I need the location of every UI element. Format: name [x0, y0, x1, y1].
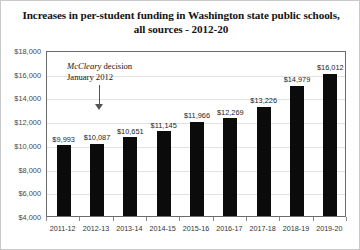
chart-title: Increases in per-student funding in Wash…: [19, 8, 343, 36]
bar[interactable]: [190, 122, 204, 216]
bar-value-label: $13,226: [250, 96, 277, 105]
y-axis-tick-label: $18,000: [0, 47, 41, 56]
mccleary-annotation: McCleary decision January 2012: [67, 61, 132, 82]
x-axis-tick: [79, 217, 80, 221]
bar-slot: $16,012: [314, 52, 347, 216]
x-axis-tick: [246, 217, 247, 221]
x-axis-category-label: 2018-19: [283, 224, 309, 233]
annotation-line-1: McCleary decision: [67, 61, 132, 72]
bar-slot: $14,979: [280, 52, 313, 216]
bar[interactable]: [90, 144, 104, 216]
x-axis-category-label: 2014-15: [149, 224, 175, 233]
bar-value-label: $16,012: [317, 63, 344, 72]
bar[interactable]: [223, 118, 237, 216]
bar[interactable]: [323, 74, 337, 216]
y-axis-tick-label: $14,000: [0, 94, 41, 103]
x-axis-tick: [113, 217, 114, 221]
x-axis-tick: [313, 217, 314, 221]
bar-slot: $11,145: [147, 52, 180, 216]
bar-slot: $13,226: [247, 52, 280, 216]
x-axis-tick: [213, 217, 214, 221]
annotation-line-1-rest: decision: [101, 61, 132, 71]
bar-value-label: $14,979: [284, 75, 311, 84]
y-axis-tick-label: $6,000: [0, 189, 41, 198]
bar-slot: $11,966: [180, 52, 213, 216]
bar[interactable]: [123, 137, 137, 216]
x-axis-category-label: 2017-18: [249, 224, 275, 233]
bar-value-label: $10,087: [84, 133, 111, 142]
x-axis-tick: [146, 217, 147, 221]
bar[interactable]: [257, 107, 271, 216]
x-axis-category-label: 2011-12: [50, 224, 76, 233]
y-axis-tick-label: $12,000: [0, 118, 41, 127]
x-axis-tick: [279, 217, 280, 221]
chart-figure: Increases in per-student funding in Wash…: [0, 0, 360, 250]
y-axis-tick-label: $10,000: [0, 141, 41, 150]
bar-slot: $12,269: [214, 52, 247, 216]
down-arrow-head-icon: [95, 104, 103, 110]
bar[interactable]: [57, 145, 71, 216]
annotation-emphasis: McCleary: [67, 61, 101, 71]
x-axis-category-label: 2013-14: [116, 224, 142, 233]
bar-value-label: $11,145: [151, 121, 177, 130]
bar-value-label: $12,269: [217, 108, 244, 117]
y-axis-tick-label: $16,000: [0, 70, 41, 79]
x-axis-tick: [346, 217, 347, 221]
x-axis-category-label: 2015-16: [183, 224, 209, 233]
x-axis-category-label: 2012-13: [83, 224, 109, 233]
x-axis-tick: [179, 217, 180, 221]
bar-value-label: $10,651: [117, 127, 144, 136]
bar-value-label: $9,993: [52, 135, 75, 144]
x-axis-category-label: 2016-17: [216, 224, 242, 233]
x-axis-tick: [46, 217, 47, 221]
down-arrow-icon: [99, 85, 100, 106]
bar[interactable]: [157, 131, 171, 216]
annotation-line-2: January 2012: [67, 72, 132, 83]
y-axis-tick-label: $8,000: [0, 165, 41, 174]
x-axis-category-label: 2019-20: [316, 224, 342, 233]
bar[interactable]: [290, 86, 304, 216]
y-axis-tick-label: $4,000: [0, 213, 41, 222]
bar-value-label: $11,966: [184, 111, 210, 120]
